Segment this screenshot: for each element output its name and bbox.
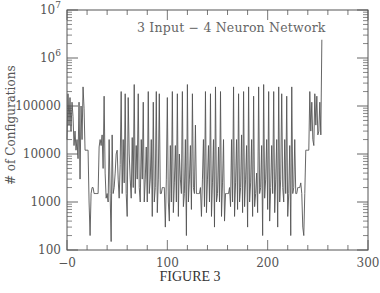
chart-annotation: 3 Input − 4 Neuron Network <box>137 20 326 35</box>
data-series-line <box>67 40 322 242</box>
line-chart: 3 Input − 4 Neuron Network # of Configur… <box>0 0 380 293</box>
y-tick-labels: 100100010000100000106107 <box>15 0 61 257</box>
y-tick-label: 10000 <box>23 147 61 161</box>
x-tick-labels: −0100200300 <box>58 256 379 270</box>
x-tick-label: 100 <box>156 256 179 270</box>
y-tick-label: 106 <box>40 48 61 65</box>
y-axis-label: # of Configurations <box>4 65 18 185</box>
plot-axes <box>67 10 368 250</box>
y-tick-label: 1000 <box>30 195 61 209</box>
y-tick-label: 100000 <box>15 99 61 113</box>
figure-caption: FIGURE 3 <box>0 269 380 285</box>
y-tick-label: 100 <box>38 243 61 257</box>
plot-frame <box>67 10 368 250</box>
x-tick-label: 300 <box>357 256 380 270</box>
x-tick-label: −0 <box>58 256 76 270</box>
y-tick-label: 107 <box>40 0 61 17</box>
x-tick-label: 200 <box>256 256 279 270</box>
